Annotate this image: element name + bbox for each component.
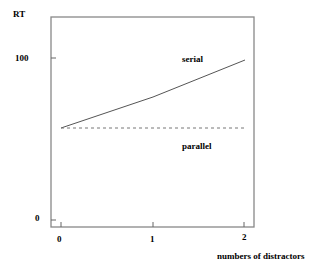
x-axis-label: numbers of distractors <box>217 251 305 261</box>
chart-canvas <box>0 0 309 268</box>
plot-frame <box>51 17 254 227</box>
serial-line <box>61 60 245 128</box>
serial-label: serial <box>182 54 203 64</box>
x-tick-label-2: 2 <box>242 232 247 242</box>
y-tick-label-100: 100 <box>15 53 29 63</box>
y-tick-label-0: 0 <box>35 213 40 223</box>
x-tick-label-1: 1 <box>150 234 155 244</box>
y-axis-label: RT <box>13 9 25 19</box>
x-tick-label-0: 0 <box>57 234 62 244</box>
parallel-label: parallel <box>182 141 212 151</box>
